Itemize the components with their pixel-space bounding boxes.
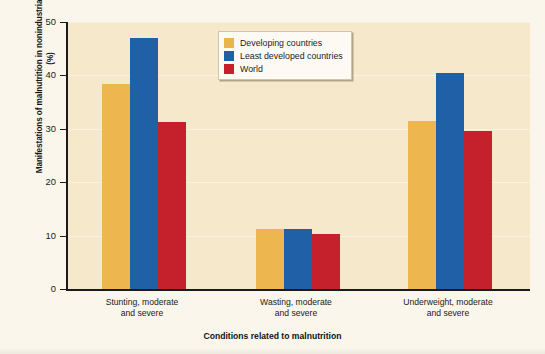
y-axis-tick-label: 0 — [28, 283, 56, 294]
bar — [256, 229, 284, 289]
page-edge-shading — [0, 348, 545, 354]
legend-item-world: World — [224, 62, 343, 75]
y-axis-tick — [60, 182, 68, 183]
y-axis-tick — [60, 75, 68, 76]
x-axis-group-label-line: and severe — [67, 308, 217, 319]
x-axis-group-label-line: and severe — [373, 308, 523, 319]
bar — [130, 38, 158, 289]
y-axis-tick-label: 20 — [28, 176, 56, 187]
y-axis-tick — [60, 22, 68, 23]
y-axis-tick — [60, 236, 68, 237]
x-axis-group-label-line: and severe — [221, 308, 371, 319]
y-axis-tick-label: 10 — [28, 230, 56, 241]
bar — [408, 121, 436, 289]
x-axis-group-label-line: Underweight, moderate — [373, 297, 523, 308]
legend-swatch-icon — [224, 38, 234, 48]
y-axis-tick-label: 30 — [28, 123, 56, 134]
chart-figure: Manifestations of malnutrition in nonind… — [0, 0, 545, 354]
bar — [464, 131, 492, 289]
x-axis-group-label: Wasting, moderateand severe — [221, 297, 371, 319]
x-axis-group-label: Stunting, moderateand severe — [67, 297, 217, 319]
x-axis-group-label-line: Wasting, moderate — [221, 297, 371, 308]
bar — [158, 122, 186, 289]
bar — [102, 84, 130, 289]
bar — [436, 73, 464, 289]
x-axis-title: Conditions related to malnutrition — [0, 331, 545, 341]
bar — [284, 229, 312, 289]
y-axis-tick-label: 40 — [28, 69, 56, 80]
legend-swatch-icon — [224, 64, 234, 74]
y-axis-tick — [60, 289, 68, 290]
gridline — [68, 22, 530, 23]
y-axis-tick-label: 50 — [28, 16, 56, 27]
bar — [312, 234, 340, 289]
legend-swatch-icon — [224, 51, 234, 61]
legend-label: World — [240, 64, 263, 74]
y-axis-tick — [60, 129, 68, 130]
legend-item-least-developed-countries: Least developed countries — [224, 49, 343, 62]
legend-item-developing-countries: Developing countries — [224, 36, 343, 49]
chart-legend: Developing countries Least developed cou… — [218, 31, 352, 80]
x-axis-group-label: Underweight, moderateand severe — [373, 297, 523, 319]
x-axis-group-label-line: Stunting, moderate — [67, 297, 217, 308]
legend-label: Least developed countries — [240, 51, 343, 61]
legend-label: Developing countries — [240, 38, 322, 48]
